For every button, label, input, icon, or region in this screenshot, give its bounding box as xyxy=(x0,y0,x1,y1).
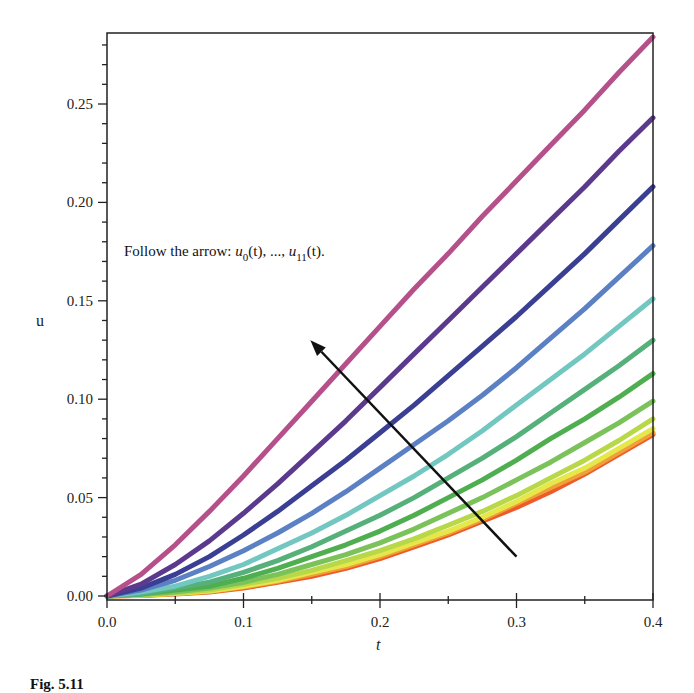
x-tick-label: 0.3 xyxy=(507,614,526,630)
y-tick-label: 0.20 xyxy=(67,194,93,210)
y-axis-label: u xyxy=(36,312,44,329)
x-tick-label: 0.2 xyxy=(371,614,390,630)
annotation-mid: (t), ..., xyxy=(248,243,288,260)
y-tick-label: 0.05 xyxy=(67,490,93,506)
series-line xyxy=(107,37,653,596)
series-line xyxy=(107,374,653,596)
x-axis-label: t xyxy=(376,636,381,653)
y-tick-label: 0.10 xyxy=(67,391,93,407)
arrow-icon xyxy=(310,340,516,556)
annotation-u11-sub: 11 xyxy=(296,251,307,263)
y-tick-label: 0.15 xyxy=(67,293,93,309)
y-tick-label: 0.00 xyxy=(67,588,93,604)
y-axis-ticks: 0.000.050.100.150.200.25 xyxy=(67,45,107,604)
figure-caption: Fig. 5.11 xyxy=(30,676,84,693)
annotation-u0: u xyxy=(235,243,243,259)
annotation-text: Follow the arrow: u0(t), ..., u11(t). xyxy=(124,243,325,263)
annotation-u11: u xyxy=(289,243,297,259)
x-axis-ticks: 0.00.10.20.30.4 xyxy=(98,593,663,630)
x-tick-label: 0.0 xyxy=(98,614,117,630)
annotation-prefix: Follow the arrow: xyxy=(124,243,235,259)
series-line xyxy=(107,429,653,596)
x-tick-label: 0.4 xyxy=(644,614,663,630)
series-curves xyxy=(107,37,653,596)
series-line xyxy=(107,118,653,596)
annotation-suffix: (t). xyxy=(307,243,325,260)
y-tick-label: 0.25 xyxy=(67,96,93,112)
x-tick-label: 0.1 xyxy=(234,614,253,630)
